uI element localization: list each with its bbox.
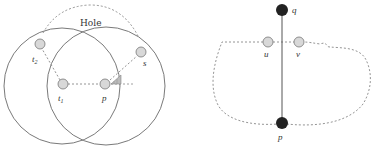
node-p-right	[276, 117, 288, 129]
node-q	[276, 4, 288, 16]
node-p	[100, 79, 110, 89]
label-t2: t2	[32, 54, 38, 65]
node-t1	[58, 79, 68, 89]
node-t2	[35, 39, 45, 49]
label-u: u	[264, 49, 269, 59]
label-q: q	[292, 5, 297, 15]
edge-t2-t1	[41, 47, 60, 80]
node-v	[294, 37, 304, 47]
label-v: v	[296, 49, 300, 59]
diagram-canvas: Hole t2 t1 p s q u v p	[0, 0, 379, 153]
angle-wedge-icon	[111, 75, 121, 84]
label-t1: t1	[58, 93, 64, 104]
region-boundary	[213, 42, 370, 125]
label-s: s	[143, 58, 147, 68]
label-p-left: p	[101, 93, 107, 103]
left-diagram: Hole t2 t1 p s	[4, 5, 165, 145]
node-u	[263, 37, 273, 47]
label-p-right: p	[277, 132, 283, 142]
right-diagram: q u v p	[213, 4, 370, 142]
hole-label: Hole	[80, 18, 101, 28]
node-s	[136, 47, 146, 57]
